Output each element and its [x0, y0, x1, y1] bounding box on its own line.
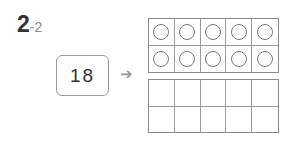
circle-icon — [257, 51, 273, 67]
ten-frame-cell — [175, 46, 201, 72]
problem-sub: -2 — [30, 19, 42, 35]
ten-frame-cell — [226, 46, 252, 72]
ten-frame-cell — [252, 19, 278, 46]
circle-icon — [231, 24, 247, 40]
circle-icon — [205, 24, 221, 40]
ten-frame-cell[interactable] — [175, 107, 201, 133]
circle-icon — [153, 51, 169, 67]
ten-frame-cell — [226, 19, 252, 46]
circle-icon — [179, 51, 195, 67]
ten-frame-filled — [148, 18, 279, 73]
ten-frame-cell — [149, 19, 175, 46]
arrow-right-icon: ➔ — [120, 66, 133, 81]
circle-icon — [153, 24, 169, 40]
ten-frame-cell[interactable] — [201, 80, 227, 107]
circle-icon — [231, 51, 247, 67]
ten-frame-cell — [252, 46, 278, 72]
problem-number: 2-2 — [17, 13, 42, 36]
ten-frame-cell[interactable] — [226, 80, 252, 107]
circle-icon — [257, 24, 273, 40]
number-box: 18 — [56, 55, 109, 96]
ten-frame-empty[interactable] — [148, 79, 279, 133]
ten-frame-cell — [175, 19, 201, 46]
ten-frame-cell[interactable] — [149, 80, 175, 107]
ten-frame-cell[interactable] — [175, 80, 201, 107]
ten-frame-cell[interactable] — [149, 107, 175, 133]
ten-frame-cell — [201, 19, 227, 46]
ten-frame-cell[interactable] — [201, 107, 227, 133]
problem-main: 2 — [17, 11, 30, 37]
ten-frame-cell — [149, 46, 175, 72]
circle-icon — [205, 51, 221, 67]
ten-frame-cell[interactable] — [252, 80, 278, 107]
ten-frame-cell[interactable] — [226, 107, 252, 133]
ten-frame-cell[interactable] — [252, 107, 278, 133]
circle-icon — [179, 24, 195, 40]
ten-frame-cell — [201, 46, 227, 72]
